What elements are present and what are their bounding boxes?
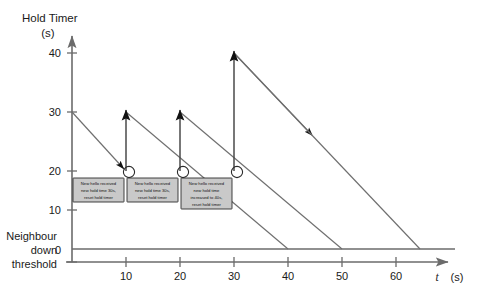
hold-timer-diagram: Hold Timer (s) 40 30 20 10 0 Neighbour d… [0, 0, 479, 305]
threshold-label-line2: down [31, 244, 57, 256]
x-tick-label-30: 30 [228, 270, 240, 282]
x-axis-label-symbol: t [435, 271, 439, 283]
callout-reset-1-line1: New hello received [81, 181, 117, 186]
threshold-label-line1: Neighbour [6, 230, 57, 242]
reset-markers [123, 166, 242, 177]
countdown-line-after-reset-3 [234, 53, 420, 249]
callout-reset-3-line4: reset hold timer [192, 202, 221, 207]
threshold-label-line3: threshold [12, 258, 57, 270]
x-tick-label-10: 10 [120, 270, 132, 282]
callout-reset-3-line2: new hold time [194, 188, 221, 193]
x-axis-label-unit: (s) [451, 271, 464, 283]
reset-marker-t30 [231, 166, 242, 177]
x-tick-label-40: 40 [282, 270, 294, 282]
y-tick-label-30: 30 [49, 106, 61, 118]
y-tick-label-40: 40 [49, 47, 61, 59]
y-axis-title-line1: Hold Timer [22, 12, 78, 24]
x-tick-label-20: 20 [174, 270, 186, 282]
reset-marker-t10 [123, 166, 134, 177]
callout-reset-2-line1: New hello received [135, 181, 171, 186]
callout-reset-2: New hello received new hold time 30s, re… [127, 178, 178, 202]
reset-marker-t20 [177, 166, 188, 177]
callout-reset-3-line3: increased to 40s, [191, 195, 223, 200]
callout-reset-1-line2: new hold time 30s, [81, 188, 116, 193]
callout-reset-3: New hello received new hold time increas… [181, 178, 232, 209]
y-axis-title-line2: (s) [41, 27, 55, 39]
diagram-canvas: Hold Timer (s) 40 30 20 10 0 Neighbour d… [0, 0, 479, 305]
x-tick-label-60: 60 [390, 270, 402, 282]
callout-reset-1-line3: reset hold timer [84, 195, 113, 200]
callout-reset-3-line1: New hello received [189, 181, 225, 186]
callout-reset-2-line3: reset hold timer [138, 195, 167, 200]
countdown-line-initial [72, 112, 124, 169]
y-tick-label-10: 10 [49, 204, 61, 216]
countdown-lines [72, 53, 420, 249]
axes [66, 36, 455, 262]
callout-reset-2-line2: new hold time 30s, [135, 188, 170, 193]
reset-risers [126, 51, 234, 171]
x-tick-label-50: 50 [336, 270, 348, 282]
y-tick-label-20: 20 [49, 165, 61, 177]
callout-reset-1: New hello received new hold time 30s, re… [73, 178, 124, 202]
